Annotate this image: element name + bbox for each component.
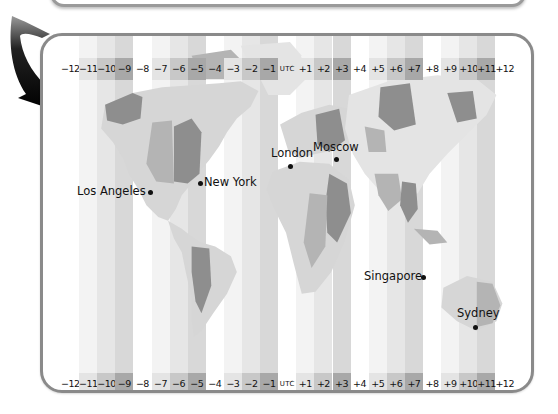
- time-zone-label: UTC: [278, 373, 296, 393]
- time-zone-label: −9: [115, 373, 133, 393]
- time-zone-label: −2: [242, 373, 260, 393]
- time-zone-label: −5: [188, 58, 206, 80]
- city-label-new-york: New York: [204, 175, 257, 189]
- time-zone-label: +2: [314, 373, 332, 393]
- time-zone-label: −2: [242, 58, 260, 80]
- time-zone-label: +4: [351, 58, 369, 80]
- time-zone-label: +3: [333, 58, 351, 80]
- time-zone-label: −3: [224, 58, 242, 80]
- time-zone-label: +11: [477, 58, 495, 80]
- time-zone-label: +4: [351, 373, 369, 393]
- time-zone-label: −12: [61, 58, 79, 80]
- city-label-moscow: Moscow: [313, 140, 359, 154]
- city-dot-moscow: [334, 157, 339, 162]
- time-zone-labels-top: −12−11−10−9−8−7−6−5−4−3−2−1UTC+1+2+3+4+5…: [43, 58, 531, 80]
- time-zone-label: +1: [296, 58, 314, 80]
- city-label-los-angeles: Los Angeles: [77, 184, 146, 198]
- time-zone-label: −10: [97, 373, 115, 393]
- time-zone-labels-bottom: −12−11−10−9−8−7−6−5−4−3−2−1UTC+1+2+3+4+5…: [43, 373, 531, 393]
- city-dot-singapore: [421, 275, 426, 280]
- city-dot-sydney: [473, 325, 478, 330]
- time-zone-label: +9: [441, 58, 459, 80]
- city-dot-london: [288, 164, 293, 169]
- time-zone-label: +9: [441, 373, 459, 393]
- world-map: [43, 36, 531, 390]
- time-zone-label: +3: [333, 373, 351, 393]
- time-zone-label: +7: [405, 58, 423, 80]
- time-zone-label: +8: [423, 373, 441, 393]
- time-zone-label: −4: [206, 58, 224, 80]
- time-zone-label: −10: [97, 58, 115, 80]
- time-zone-label: UTC: [278, 58, 296, 80]
- time-zone-label: −7: [152, 373, 170, 393]
- time-zone-label: −1: [260, 373, 278, 393]
- time-zone-label: +12: [495, 373, 513, 393]
- time-zone-label: −1: [260, 58, 278, 80]
- city-label-sydney: Sydney: [457, 306, 500, 320]
- time-zone-label: +10: [459, 58, 477, 80]
- time-zone-label: +2: [314, 58, 332, 80]
- time-zone-label: +7: [405, 373, 423, 393]
- time-zone-label: +1: [296, 373, 314, 393]
- time-zone-label: −11: [79, 58, 97, 80]
- time-zone-label: +10: [459, 373, 477, 393]
- time-zone-label: +6: [387, 373, 405, 393]
- time-zone-label: −6: [170, 58, 188, 80]
- time-zone-label: −5: [188, 373, 206, 393]
- time-zone-label: −9: [115, 58, 133, 80]
- city-dot-new-york: [198, 181, 203, 186]
- city-dot-los-angeles: [148, 190, 153, 195]
- time-zone-label: −11: [79, 373, 97, 393]
- time-zone-label: +5: [369, 373, 387, 393]
- time-zone-label: +8: [423, 58, 441, 80]
- time-zone-label: +5: [369, 58, 387, 80]
- time-zone-label: +12: [495, 58, 513, 80]
- time-zone-label: −8: [133, 58, 151, 80]
- city-label-singapore: Singapore: [364, 269, 422, 283]
- time-zone-label: +11: [477, 373, 495, 393]
- time-zone-label: −3: [224, 373, 242, 393]
- time-zone-map-panel: −12−11−10−9−8−7−6−5−4−3−2−1UTC+1+2+3+4+5…: [40, 33, 534, 393]
- city-label-london: London: [271, 146, 313, 160]
- time-zone-label: −7: [152, 58, 170, 80]
- previous-panel-edge: [50, 0, 526, 7]
- time-zone-label: −8: [133, 373, 151, 393]
- time-zone-label: −4: [206, 373, 224, 393]
- time-zone-label: −6: [170, 373, 188, 393]
- time-zone-label: +6: [387, 58, 405, 80]
- time-zone-label: −12: [61, 373, 79, 393]
